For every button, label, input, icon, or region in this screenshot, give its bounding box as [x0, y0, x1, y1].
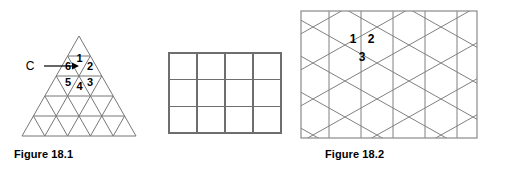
hex-cell-3: 3: [359, 50, 366, 64]
triangle-cell-5: 5: [65, 76, 71, 88]
triangle-cell-1: 1: [76, 52, 82, 64]
hex-frame-border: [301, 11, 477, 138]
hexagonal-tiling-diagram: 1 2 3: [295, 0, 516, 145]
figure-18-1-caption: Figure 18.1: [14, 148, 73, 160]
figure-18-2-panel: Figure 18.2: [160, 0, 295, 170]
hex-cell-1: 1: [350, 32, 357, 46]
grid-diag-l-4: [113, 116, 124, 136]
triangle-cell-3: 3: [87, 76, 93, 88]
triangle-cell-2: 2: [87, 60, 93, 72]
grid-diag-r-4: [33, 116, 44, 136]
label-c: C: [26, 59, 35, 73]
figure-18-3-panel: 1 2 3 Figure 18.3: [295, 0, 516, 170]
square-grid-diagram: [160, 0, 295, 145]
hex-cell-2: 2: [368, 32, 375, 46]
triangular-grid-diagram: C 1 2 3 4 5 6: [0, 0, 160, 145]
figure-18-1-panel: C 1 2 3 4 5 6 Figure 18.1: [0, 0, 160, 170]
hex-lattice: [297, 0, 489, 145]
triangle-cell-4: 4: [76, 80, 83, 92]
pointer-c-group: [44, 63, 79, 70]
triangle-cell-6: 6: [65, 60, 71, 72]
